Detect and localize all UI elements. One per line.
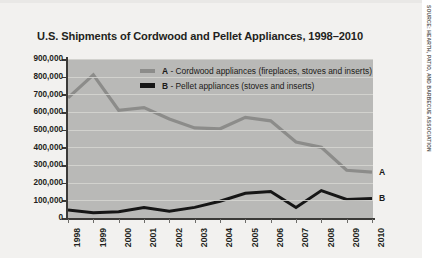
gridline: [68, 94, 373, 95]
chart-legend: A - Cordwood appliances (fireplaces, sto…: [140, 64, 372, 94]
y-axis-label: 500,000: [5, 125, 63, 134]
y-axis-label: 200,000: [5, 178, 63, 187]
y-axis-label: 300,000: [5, 160, 63, 169]
x-axis-label: 2001: [148, 228, 158, 247]
legend-item-a: A - Cordwood appliances (fireplaces, sto…: [140, 64, 372, 77]
x-axis-label: 1999: [98, 228, 108, 247]
x-axis-label: 2004: [224, 228, 234, 247]
legend-swatch-b-icon: [140, 83, 155, 88]
gridline: [68, 147, 373, 148]
source-credit: SOURCE: HEARTH, PATIO, AND BARBECUE ASSO…: [426, 5, 431, 152]
y-axis-line: [66, 57, 68, 220]
x-axis-tick: [271, 219, 272, 223]
x-axis-label: 2003: [199, 228, 209, 247]
x-axis-tick: [119, 219, 120, 223]
y-axis-labels: 0100,000200,000300,000400,000500,000600,…: [3, 0, 63, 279]
x-axis-tick: [372, 219, 373, 223]
y-axis-label: 600,000: [5, 107, 63, 116]
x-axis-label: 2002: [174, 228, 184, 247]
x-axis-label: 2005: [250, 228, 260, 247]
panel-top-edge: [0, 0, 422, 3]
chart-figure: U.S. Shipments of Cordwood and Pellet Ap…: [0, 0, 445, 279]
legend-label-a: A - Cordwood appliances (fireplaces, sto…: [162, 66, 372, 76]
legend-item-b: B - Pellet appliances (stoves and insert…: [140, 79, 372, 92]
x-axis-tick: [68, 219, 69, 223]
x-axis-label: 2007: [300, 228, 310, 247]
x-axis-tick: [321, 219, 322, 223]
x-axis-label: 2009: [351, 228, 361, 247]
legend-separator-b: -: [168, 81, 175, 91]
y-axis-label: 400,000: [5, 143, 63, 152]
series-line-b: [68, 191, 372, 213]
legend-label-b: B - Pellet appliances (stoves and insert…: [162, 81, 314, 91]
gridline: [68, 130, 373, 131]
x-axis-tick: [144, 219, 145, 223]
x-axis-label: 2000: [123, 228, 133, 247]
legend-text-b: Pellet appliances (stoves and inserts): [176, 81, 315, 91]
gridline: [68, 183, 373, 184]
x-axis-label: 2010: [376, 228, 386, 247]
x-axis-tick: [195, 219, 196, 223]
x-axis-tick: [169, 219, 170, 223]
x-axis-label: 1998: [72, 228, 82, 247]
y-axis-label: 700,000: [5, 90, 63, 99]
legend-text-a: Cordwood appliances (fireplaces, stoves …: [176, 66, 372, 76]
gridline: [68, 59, 373, 60]
gridline: [68, 112, 373, 113]
x-axis-tick: [296, 219, 297, 223]
x-axis-tick: [93, 219, 94, 223]
y-axis-label: 0: [5, 213, 63, 222]
legend-swatch-a-icon: [140, 69, 155, 73]
x-axis-label: 2008: [326, 228, 336, 247]
series-end-label-b: B: [379, 193, 385, 203]
x-axis-tick: [245, 219, 246, 223]
gridline: [68, 165, 373, 166]
y-axis-label: 100,000: [5, 196, 63, 205]
legend-separator-a: -: [168, 66, 175, 76]
x-axis-tick: [347, 219, 348, 223]
gridline: [68, 200, 373, 201]
y-axis-label: 900,000: [5, 54, 63, 63]
x-axis-tick: [220, 219, 221, 223]
y-axis-label: 800,000: [5, 72, 63, 81]
series-end-label-a: A: [379, 167, 385, 177]
x-axis-label: 2006: [275, 228, 285, 247]
